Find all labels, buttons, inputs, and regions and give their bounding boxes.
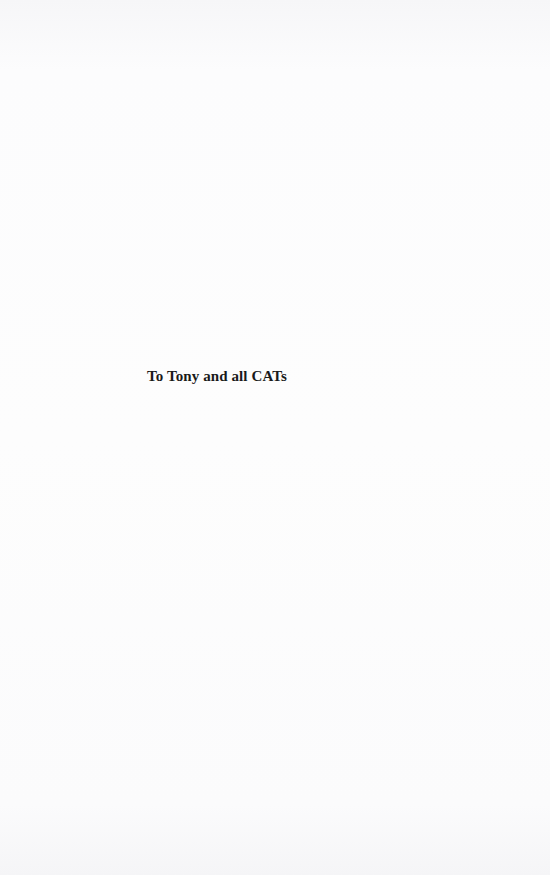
document-page: To Tony and all CATs xyxy=(0,0,550,875)
dedication-text: To Tony and all CATs xyxy=(147,368,287,385)
